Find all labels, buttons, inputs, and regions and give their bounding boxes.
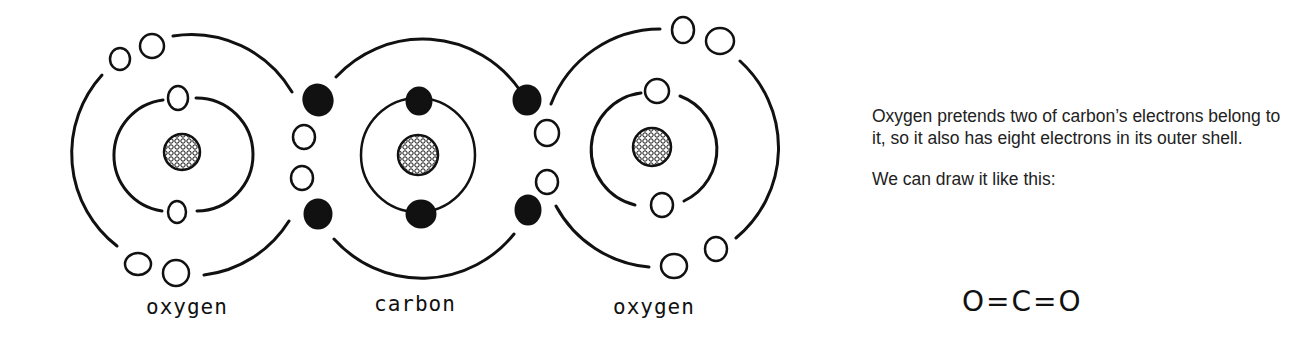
electron (168, 86, 188, 110)
electron (651, 193, 673, 217)
carbon-atom (300, 39, 540, 278)
right-oxygen-outer-shell (551, 29, 660, 104)
electron (706, 28, 734, 54)
explanation-text: Oxygen pretends two of carbon’s electron… (872, 106, 1292, 191)
carbon-label: carbon (374, 292, 456, 316)
electron (140, 34, 164, 58)
structural-formula: O=C=O (962, 285, 1083, 318)
electron (536, 170, 558, 194)
electron (293, 125, 315, 149)
carbon-electron (514, 86, 540, 114)
explanation-paragraph-1: Oxygen pretends two of carbon’s electron… (872, 106, 1292, 149)
electron (705, 237, 727, 261)
electron (535, 120, 559, 146)
right-oxygen-atom (535, 17, 779, 278)
electron (661, 254, 687, 278)
left-oxygen-inner-shell (114, 100, 163, 211)
electron (291, 166, 313, 190)
carbon-electron (407, 88, 431, 114)
left-oxygen-nucleus (164, 134, 200, 170)
explanation-paragraph-2: We can draw it like this: (872, 169, 1292, 191)
carbon-electron (407, 201, 435, 227)
electron (163, 260, 189, 286)
left-oxygen-label: oxygen (146, 295, 228, 319)
carbon-nucleus (398, 135, 438, 175)
carbon-outer-shell (336, 39, 519, 89)
carbon-electron (516, 196, 540, 224)
electron (168, 201, 186, 223)
carbon-electron (300, 81, 337, 119)
right-oxygen-label: oxygen (613, 295, 695, 319)
right-oxygen-nucleus (633, 128, 671, 166)
electron (110, 48, 130, 70)
electron (672, 17, 694, 43)
left-oxygen-atom (72, 34, 315, 286)
electron (125, 253, 151, 275)
carbon-electron (305, 200, 331, 228)
electron (645, 79, 669, 103)
left-oxygen-outer-shell (72, 75, 117, 246)
